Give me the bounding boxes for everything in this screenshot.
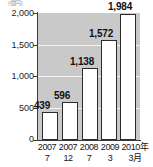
x-axis: 2007 7 2007 12 2008 7 2009 3 2010年 3月 (0, 142, 153, 167)
bar-value-2010-3: 1,984 (98, 2, 142, 12)
bar-2008-7 (82, 68, 98, 140)
bar-chart-figure: (億円) 2,000 1,500 1,000 500 0 439 596 1,1… (0, 0, 153, 167)
x-tick-year: 2010年 (118, 142, 152, 153)
bar-2007-7 (42, 112, 58, 140)
x-axis-line (37, 140, 141, 141)
bar-2007-12 (62, 102, 78, 140)
bar-value-2008-7: 1,138 (60, 57, 104, 67)
bar-value-2007-12: 596 (44, 91, 80, 101)
x-tick-2010-3: 2010年 3月 (118, 142, 152, 164)
x-tick-month: 3月 (118, 153, 152, 164)
y-tick-label-1500: 1,500 (11, 41, 34, 50)
y-tick-label-2000: 2,000 (11, 9, 34, 18)
bar-2009-3 (101, 40, 117, 140)
bar-value-2007-7: 439 (24, 101, 60, 111)
bar-value-2009-3: 1,572 (79, 29, 123, 39)
y-tick-label-1000: 1,000 (11, 72, 34, 81)
